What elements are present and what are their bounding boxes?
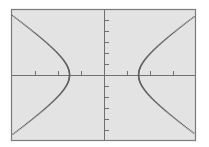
calculator-graph-screen: [0, 0, 209, 147]
hyperbola-plot: [0, 0, 209, 147]
